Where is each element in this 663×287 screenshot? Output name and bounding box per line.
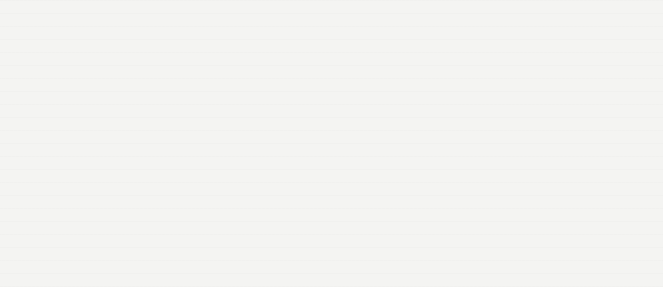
phylogeny-figure <box>0 0 663 287</box>
